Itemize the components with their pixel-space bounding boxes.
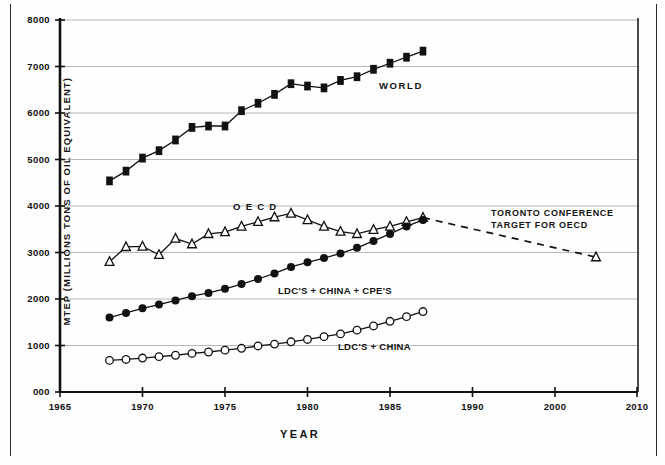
y-tick-label: 2000 bbox=[8, 293, 50, 304]
y-tick-label: 5000 bbox=[8, 154, 50, 165]
chart-canvas bbox=[0, 0, 665, 465]
y-tick-label: 1000 bbox=[8, 340, 50, 351]
y-tick-label: 3000 bbox=[8, 247, 50, 258]
x-tick-label: 1970 bbox=[120, 401, 166, 412]
y-tick-label: 000 bbox=[8, 386, 50, 397]
series-label-ldc-china: LDC'S + CHINA bbox=[338, 341, 411, 352]
x-tick-label: 1975 bbox=[202, 401, 248, 412]
y-tick-label: 7000 bbox=[8, 61, 50, 72]
x-tick-label: 1990 bbox=[450, 401, 496, 412]
series-label-oecd: O E C D bbox=[233, 201, 277, 212]
x-tick-label: 1965 bbox=[37, 401, 83, 412]
figure-root: MTEP (MILLIONS TONS OF OIL EQUIVALENT) 0… bbox=[0, 0, 665, 465]
x-axis-title: YEAR bbox=[0, 428, 600, 440]
axes bbox=[60, 18, 638, 392]
x-tick-label: 1980 bbox=[285, 401, 331, 412]
series-0 bbox=[106, 47, 426, 186]
x-tick-label: 1985 bbox=[367, 401, 413, 412]
data-series-group bbox=[105, 47, 600, 364]
toronto-annotation-line2: TARGET FOR OECD bbox=[491, 219, 588, 231]
series-2 bbox=[106, 216, 428, 322]
x-tick-label: 2010 bbox=[614, 401, 660, 412]
y-tick-label: 6000 bbox=[8, 107, 50, 118]
series-label-ldc-china-cpe: LDC'S + CHINA + CPE'S bbox=[278, 285, 392, 296]
toronto-annotation-line1: TORONTO CONFERENCE bbox=[491, 207, 614, 219]
gridlines bbox=[60, 20, 638, 346]
series-3 bbox=[106, 308, 427, 364]
series-1 bbox=[105, 208, 427, 265]
x-tick-label: 2000 bbox=[532, 401, 578, 412]
y-tick-label: 8000 bbox=[8, 14, 50, 25]
y-tick-label: 4000 bbox=[8, 200, 50, 211]
series-label-world: WORLD bbox=[379, 80, 423, 91]
